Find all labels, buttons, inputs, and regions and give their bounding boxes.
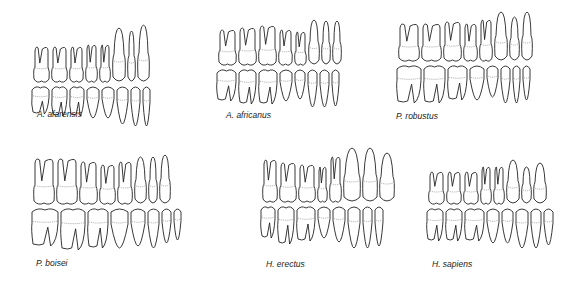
upper-tooth-4 — [481, 167, 492, 204]
lower-tooth-7 — [531, 209, 541, 248]
lower-tooth-6 — [516, 209, 528, 248]
lower-tooth-1 — [427, 209, 443, 241]
dentition-sapiens-drawing — [0, 0, 587, 282]
upper-tooth-8 — [534, 163, 547, 203]
upper-tooth-7 — [522, 167, 532, 203]
lower-tooth-4 — [487, 209, 499, 243]
upper-tooth-2 — [447, 172, 462, 204]
lower-tooth-5 — [502, 209, 513, 243]
upper-tooth-3 — [464, 172, 479, 204]
lower-tooth-2 — [446, 209, 462, 241]
lower-tooth-3 — [465, 209, 484, 241]
upper-tooth-5 — [494, 167, 505, 204]
upper-tooth-6 — [507, 160, 520, 203]
lower-tooth-8 — [544, 209, 553, 245]
species-label-sapiens: H. sapiens — [432, 259, 472, 269]
upper-tooth-1 — [429, 172, 445, 204]
